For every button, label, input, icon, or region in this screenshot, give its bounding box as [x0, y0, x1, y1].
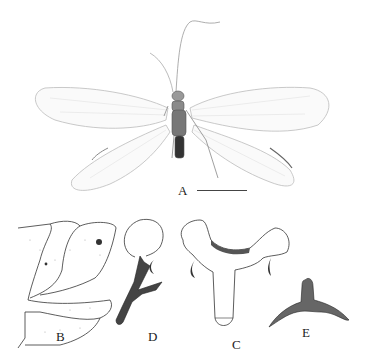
panel-d-genitalia-lateral	[110, 212, 170, 332]
panel-label-d: D	[148, 330, 157, 343]
panel-a-insect-habitus	[0, 0, 365, 200]
panel-label-b: B	[56, 330, 65, 343]
panel-label-c: C	[232, 338, 241, 351]
panel-label-e: E	[302, 326, 310, 339]
scale-bar	[197, 190, 247, 191]
panel-label-a: A	[178, 184, 187, 197]
panel-e-sclerite	[265, 272, 355, 342]
figure-plate: A B D C	[0, 0, 365, 364]
